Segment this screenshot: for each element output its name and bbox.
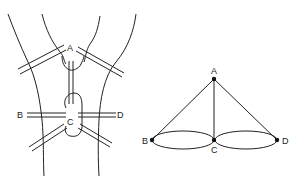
graph-label-b: B [142, 136, 148, 146]
node-b [150, 138, 154, 142]
node-c [212, 138, 216, 142]
map-label-a: A [67, 43, 73, 53]
left-bank-outer [8, 14, 44, 176]
map-label-b: B [17, 110, 23, 120]
edges-b-c [152, 131, 214, 149]
diagram-canvas: A B C D A B C D [0, 0, 294, 178]
bridge-a-right [76, 47, 124, 77]
graph-label-c: C [211, 145, 218, 155]
bridge-c-lower-right [78, 124, 112, 147]
edges-c-d [215, 131, 277, 149]
bridge-a-c [69, 61, 73, 104]
graph-label-d: D [282, 136, 289, 146]
node-a [212, 77, 216, 81]
map-panel [8, 14, 136, 176]
node-d [275, 138, 279, 142]
bridge-b-c [27, 113, 66, 117]
map-label-d: D [117, 110, 124, 120]
bridge-c-lower-left [29, 124, 67, 151]
right-bank-outer [98, 14, 136, 176]
bridge-a-left [18, 45, 66, 74]
bridge-c-d [78, 113, 116, 117]
map-label-c: C [67, 117, 74, 127]
graph-label-a: A [211, 66, 217, 76]
